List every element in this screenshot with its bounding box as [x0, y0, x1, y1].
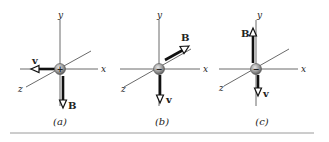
- charge-sign: −: [156, 65, 163, 74]
- axes-a: y x z: [17, 10, 106, 106]
- v-label: v: [31, 55, 39, 66]
- arrowhead-icon: [255, 88, 262, 96]
- magnetic-field-vector-c: B: [241, 28, 257, 63]
- B-label: B: [181, 32, 189, 43]
- charge-sign: −: [253, 65, 260, 74]
- three-panel-vector-diagram: y x z v B + (a): [0, 0, 329, 142]
- y-axis-label: y: [156, 10, 163, 20]
- z-axis-label: z: [120, 84, 126, 94]
- axes-b: y x z: [120, 10, 208, 106]
- v-label: v: [165, 94, 173, 105]
- v-label: v: [262, 88, 270, 99]
- magnetic-field-vector-a: B: [60, 76, 77, 111]
- y-axis-label: y: [57, 10, 64, 20]
- velocity-vector-a: v: [31, 55, 56, 73]
- x-axis-label: x: [301, 64, 306, 74]
- z-axis-label: z: [17, 84, 23, 94]
- charge-sign: +: [57, 65, 64, 74]
- arrowhead-icon: [31, 66, 39, 73]
- x-axis-label: x: [203, 64, 208, 74]
- magnetic-field-vector-b: B: [165, 32, 189, 60]
- x-axis-label: x: [101, 64, 106, 74]
- z-axis-label: z: [218, 83, 224, 93]
- panel-a: y x z v B + (a): [17, 10, 106, 127]
- particle-c: −: [251, 64, 262, 75]
- particle-b: −: [154, 64, 165, 75]
- caption-c: (c): [255, 116, 269, 127]
- arrowhead-icon: [157, 95, 164, 103]
- velocity-vector-b: v: [157, 75, 174, 105]
- B-label: B: [68, 100, 76, 111]
- panel-b: y x z B v − (b): [120, 10, 208, 127]
- arrowhead-icon: [250, 28, 257, 36]
- panel-c: y x z B v − (c): [218, 10, 306, 127]
- y-axis-label: y: [256, 10, 263, 20]
- particle-a: +: [55, 64, 66, 75]
- caption-a: (a): [53, 116, 67, 127]
- velocity-vector-c: v: [255, 75, 271, 99]
- caption-b: (b): [155, 116, 169, 127]
- B-label: B: [241, 28, 249, 39]
- arrowhead-icon: [60, 100, 67, 108]
